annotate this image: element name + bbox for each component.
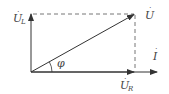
- label-UR-subscript: R: [127, 85, 134, 93]
- label-UR: · U R: [120, 74, 134, 93]
- label-phi: φ: [57, 57, 65, 70]
- phasor-diagram: · U L · U · I · U R φ: [0, 0, 169, 94]
- phase-angle-arc: [49, 62, 52, 72]
- label-I-symbol: I: [152, 50, 158, 63]
- label-I: · I: [152, 44, 158, 63]
- label-UL: · U L: [13, 7, 26, 26]
- label-U-symbol: U: [145, 9, 155, 22]
- voltage-phasor-U: [31, 15, 134, 73]
- label-UL-subscript: L: [20, 18, 26, 26]
- label-U: · U: [145, 3, 155, 22]
